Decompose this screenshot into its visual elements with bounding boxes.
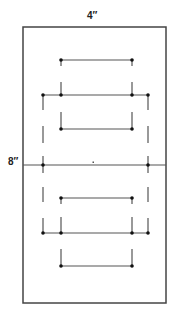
banner-layout-diagram bbox=[0, 0, 176, 317]
center-mark bbox=[93, 162, 95, 164]
upper-group bbox=[43, 60, 148, 173]
width-dimension-label: 4″ bbox=[87, 11, 97, 21]
height-dimension-label: 8″ bbox=[8, 157, 18, 167]
joint-dots bbox=[41, 58, 150, 268]
